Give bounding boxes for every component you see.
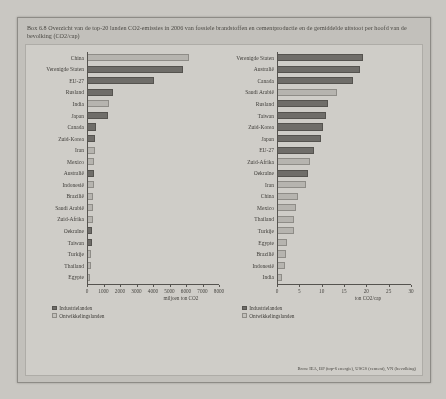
category-label: Canada	[226, 78, 277, 84]
bar-track	[277, 248, 420, 260]
bar-ind	[87, 89, 113, 96]
chart-right-rows: Verenigde StatenAustraliëCanadaSaudi Ara…	[226, 52, 420, 283]
bar-track	[277, 121, 420, 133]
bar-ind	[87, 77, 154, 84]
category-label: Brazilië	[226, 251, 277, 257]
category-label: Taiwan	[28, 240, 87, 246]
bar-ind	[277, 170, 308, 177]
legend-swatch-developing-icon	[52, 313, 57, 318]
bar-track	[277, 260, 420, 272]
category-label: India	[28, 101, 87, 107]
category-label: Zuid-Korea	[28, 136, 87, 142]
category-label: Japan	[28, 113, 87, 119]
axis-tick-label: 3000	[131, 288, 141, 294]
bar-dev	[87, 54, 189, 61]
bar-track	[277, 179, 420, 191]
legend-swatch-developing-icon	[242, 313, 247, 318]
bar-track	[277, 75, 420, 87]
bar-dev	[277, 193, 298, 200]
category-label: Indonesië	[28, 182, 87, 188]
category-label: China	[226, 193, 277, 199]
legend-item-developing: Ontwikkelingslanden	[52, 313, 105, 319]
bar-ind	[277, 135, 321, 142]
bar-ind	[87, 66, 183, 73]
axis-tick-label: 5	[298, 288, 301, 294]
box-title: Box 6.8 Overzicht van de top-20 landen C…	[27, 24, 419, 40]
bar-track	[87, 133, 226, 145]
chart-row: Indonesië	[226, 260, 420, 272]
bar-dev	[277, 158, 310, 165]
legend-item-industrialized: Industrielanden	[242, 305, 295, 311]
chart-row: Mexico	[28, 156, 226, 168]
category-label: Thailand	[28, 263, 87, 269]
chart-right-x-axis-label: ton CO2/cap	[355, 295, 381, 301]
category-label: EU-27	[226, 147, 277, 153]
bar-track	[277, 167, 420, 179]
chart-row: India	[28, 98, 226, 110]
bar-track	[277, 87, 420, 99]
bar-ind	[87, 170, 94, 177]
bar-track	[277, 144, 420, 156]
legend-swatch-industrialized-icon	[242, 306, 247, 311]
category-label: Egypte	[28, 274, 87, 280]
category-label: Rusland	[226, 101, 277, 107]
category-label: Oekraïne	[226, 170, 277, 176]
bar-dev	[277, 250, 286, 257]
axis-tick-label: 20	[364, 288, 369, 294]
chart-row: Egypte	[28, 271, 226, 283]
category-label: Egypte	[226, 240, 277, 246]
chart-row: Turkije	[226, 225, 420, 237]
chart-row: China	[226, 191, 420, 203]
chart-left-legend: Industrielanden Ontwikkelingslanden	[52, 305, 105, 320]
chart-left-x-axis-label: miljoen ton CO2	[164, 295, 199, 301]
bar-track	[277, 98, 420, 110]
bar-track	[277, 156, 420, 168]
category-label: Zuid-Afrika	[226, 159, 277, 165]
bar-track	[277, 191, 420, 203]
category-label: Turkije	[28, 251, 87, 257]
chart-row: EU-27	[226, 144, 420, 156]
axis-tick-label: 0	[276, 288, 279, 294]
bar-ind	[277, 54, 363, 61]
chart-row: Oekraïne	[226, 167, 420, 179]
bar-ind	[277, 66, 360, 73]
bar-track	[87, 98, 226, 110]
bar-track	[87, 156, 226, 168]
bar-ind	[277, 100, 328, 107]
chart-row: Zuid-Afrika	[28, 214, 226, 226]
legend-label-industrialized: Industrielanden	[59, 305, 92, 311]
figure-page: Box 6.8 Overzicht van de top-20 landen C…	[0, 0, 446, 399]
chart-row: Saudi Arabië	[28, 202, 226, 214]
legend-label-developing: Ontwikkelingslanden	[59, 313, 104, 319]
bar-dev	[277, 216, 294, 223]
bar-ind	[277, 123, 323, 130]
chart-row: Verenigde Staten	[226, 52, 420, 64]
legend-label-developing: Ontwikkelingslanden	[249, 313, 294, 319]
chart-row: China	[28, 52, 226, 64]
chart-row: Egypte	[226, 237, 420, 249]
chart-per-capita-emissions: Verenigde StatenAustraliëCanadaSaudi Ara…	[226, 49, 420, 371]
bar-track	[87, 202, 226, 214]
chart-row: Australië	[226, 64, 420, 76]
category-label: Iran	[226, 182, 277, 188]
chart-row: Canada	[28, 121, 226, 133]
source-note: Bron: IEA, BP (top-6 energie), USGS (cem…	[298, 366, 416, 371]
chart-row: Turkije	[28, 248, 226, 260]
chart-row: Zuid-Korea	[28, 133, 226, 145]
bar-track	[87, 75, 226, 87]
category-label: Rusland	[28, 89, 87, 95]
category-label: Australië	[226, 66, 277, 72]
category-label: Verenigde Staten	[226, 55, 277, 61]
bar-dev	[87, 158, 94, 165]
category-label: Indonesië	[226, 263, 277, 269]
chart-row: Japan	[226, 133, 420, 145]
category-label: Verenigde Staten	[28, 66, 87, 72]
axis-tick-label: 6000	[181, 288, 191, 294]
bar-track	[277, 64, 420, 76]
axis-tick-label: 2000	[115, 288, 125, 294]
chart-row: Taiwan	[226, 110, 420, 122]
chart-right-legend: Industrielanden Ontwikkelingslanden	[242, 305, 295, 320]
chart-row: Iran	[28, 144, 226, 156]
chart-row: Australië	[28, 167, 226, 179]
axis-tick-label: 5000	[164, 288, 174, 294]
